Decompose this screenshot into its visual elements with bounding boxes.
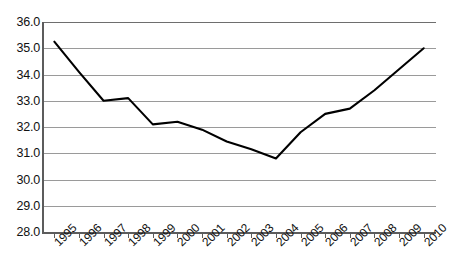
y-axis-tick-label: 32.0 bbox=[2, 121, 40, 133]
series-path bbox=[54, 42, 423, 159]
y-axis-tick-label: 28.0 bbox=[2, 226, 40, 238]
y-axis-tick-labels: 36.035.034.033.032.031.030.029.028.0 bbox=[0, 0, 40, 276]
data-series-line bbox=[42, 22, 436, 232]
y-axis-tick-label: 31.0 bbox=[2, 147, 40, 159]
y-axis-tick-label: 35.0 bbox=[2, 42, 40, 54]
y-axis-tick-label: 36.0 bbox=[2, 16, 40, 28]
line-chart: 36.035.034.033.032.031.030.029.028.0 199… bbox=[0, 0, 454, 276]
y-axis-tick-label: 33.0 bbox=[2, 95, 40, 107]
y-axis-tick-label: 34.0 bbox=[2, 69, 40, 81]
y-axis-tick-label: 30.0 bbox=[2, 174, 40, 186]
y-axis-tick-label: 29.0 bbox=[2, 200, 40, 212]
